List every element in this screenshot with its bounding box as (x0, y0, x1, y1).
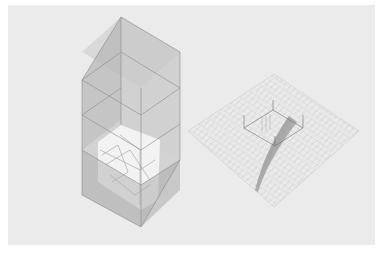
translucent-prism (82, 17, 180, 227)
artwork-canvas (0, 0, 378, 254)
grid-plane-with-cube (188, 74, 359, 207)
